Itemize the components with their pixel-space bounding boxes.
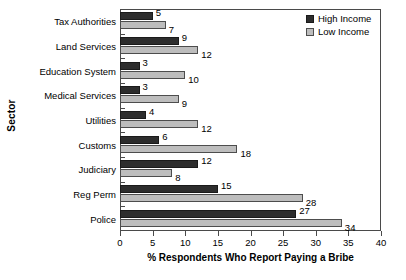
bar-value-label: 12 — [198, 123, 212, 134]
bar-value-label: 9 — [179, 32, 187, 43]
bar-value-label: 6 — [159, 130, 167, 141]
x-axis-tick — [381, 231, 382, 236]
bar-value-label: 9 — [179, 98, 187, 109]
x-axis-tick — [348, 231, 349, 236]
y-axis-tick-label: Education System — [6, 65, 120, 76]
bar-high-income[interactable] — [120, 62, 140, 70]
bar-low-income[interactable] — [120, 145, 237, 153]
bar-high-income[interactable] — [120, 136, 159, 144]
y-axis-tick — [120, 182, 125, 183]
x-axis-tick — [283, 231, 284, 236]
x-axis-tick — [153, 231, 154, 236]
bar-high-income[interactable] — [120, 111, 146, 119]
legend-swatch-high-income — [306, 15, 314, 23]
legend-label-low-income: Low Income — [318, 26, 369, 37]
bar-high-income[interactable] — [120, 37, 179, 45]
legend-item[interactable]: Low Income — [306, 26, 371, 37]
bar-value-label: 3 — [140, 56, 148, 67]
x-axis-tick-label: 40 — [376, 237, 387, 248]
bar-value-label: 5 — [153, 7, 161, 18]
bar-high-income[interactable] — [120, 185, 218, 193]
y-axis-tick — [120, 34, 125, 35]
bar-low-income[interactable] — [120, 120, 198, 128]
bar-low-income[interactable] — [120, 21, 166, 29]
legend-item[interactable]: High Income — [306, 13, 371, 24]
y-axis-tick — [120, 83, 125, 84]
y-axis-tick-label: Tax Authorities — [6, 16, 120, 27]
x-axis-tick — [251, 231, 252, 236]
y-axis-tick-label: Customs — [6, 139, 120, 150]
y-axis-tick — [120, 206, 125, 207]
x-axis-tick-label: 10 — [180, 237, 191, 248]
x-axis-tick — [218, 231, 219, 236]
bar-value-label: 18 — [237, 147, 251, 158]
y-axis-tick-label: Medical Services — [6, 90, 120, 101]
x-axis-tick-label: 5 — [150, 237, 155, 248]
bar-low-income[interactable] — [120, 95, 179, 103]
bar-value-label: 27 — [296, 204, 310, 215]
legend-swatch-low-income — [306, 28, 314, 36]
x-axis-tick-label: 20 — [245, 237, 256, 248]
x-axis-tick — [120, 231, 121, 236]
x-axis-tick-label: 35 — [343, 237, 354, 248]
bar-value-label: 7 — [166, 24, 174, 35]
x-axis-title: % Respondents Who Report Paying a Bribe — [120, 252, 381, 263]
bars-layer: 579123103941261812815282734 — [120, 9, 381, 231]
bar-low-income[interactable] — [120, 46, 198, 54]
x-axis-tick-label: 15 — [213, 237, 224, 248]
x-axis-tick — [316, 231, 317, 236]
bar-high-income[interactable] — [120, 160, 198, 168]
legend-label-high-income: High Income — [318, 13, 371, 24]
bar-low-income[interactable] — [120, 219, 342, 227]
bar-low-income[interactable] — [120, 194, 303, 202]
y-axis-tick — [120, 132, 125, 133]
bar-high-income[interactable] — [120, 12, 153, 20]
y-axis-tick-label: Land Services — [6, 41, 120, 52]
bar-value-label: 8 — [172, 172, 180, 183]
legend: High Income Low Income — [306, 13, 371, 39]
y-axis-tick — [120, 157, 125, 158]
y-axis-category-labels: Tax AuthoritiesLand ServicesEducation Sy… — [0, 0, 120, 280]
bar-value-label: 12 — [198, 49, 212, 60]
y-axis-tick-label: Police — [6, 213, 120, 224]
x-axis-tick — [185, 231, 186, 236]
bar-value-label: 10 — [185, 73, 199, 84]
bar-value-label: 15 — [218, 180, 232, 191]
y-axis-tick — [120, 9, 125, 10]
bar-high-income[interactable] — [120, 86, 140, 94]
bar-high-income[interactable] — [120, 210, 296, 218]
x-axis-tick-label: 30 — [310, 237, 321, 248]
bar-value-label: 12 — [198, 155, 212, 166]
y-axis-tick-label: Judiciary — [6, 164, 120, 175]
x-axis-tick-label: 25 — [278, 237, 289, 248]
y-axis-tick — [120, 108, 125, 109]
bar-value-label: 4 — [146, 106, 154, 117]
bar-low-income[interactable] — [120, 71, 185, 79]
bar-low-income[interactable] — [120, 169, 172, 177]
y-axis-tick — [120, 58, 125, 59]
y-axis-tick-label: Utilities — [6, 115, 120, 126]
bar-value-label: 3 — [140, 81, 148, 92]
x-axis-tick-label: 0 — [117, 237, 122, 248]
bar-chart: Sector Tax AuthoritiesLand ServicesEduca… — [0, 0, 406, 280]
y-axis-tick-label: Reg Perm — [6, 189, 120, 200]
